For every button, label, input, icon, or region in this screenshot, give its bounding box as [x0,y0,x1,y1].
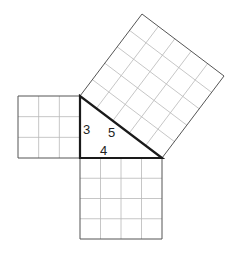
square-b [80,158,162,239]
label-side-b: 4 [100,143,107,158]
square-c [80,14,224,158]
right-triangle [80,96,162,158]
label-side-a: 3 [83,122,90,137]
label-side-c: 5 [108,125,115,140]
square-a [18,96,80,158]
pythagoras-diagram: 3 5 4 [0,0,231,256]
